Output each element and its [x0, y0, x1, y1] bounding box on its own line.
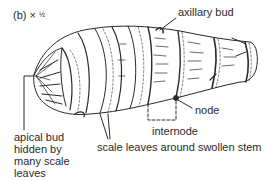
magnification-fraction: ½ — [39, 11, 45, 18]
stem-outline — [34, 26, 258, 114]
label-scale-leaves: scale leaves around swollen stem — [97, 141, 261, 153]
node-pointer — [178, 100, 192, 108]
apical-bud-pointer — [24, 76, 34, 130]
label-node: node — [195, 104, 219, 116]
figure-id: (b) × — [13, 9, 36, 21]
label-internode: internode — [152, 125, 198, 137]
internode-bracket — [148, 100, 176, 120]
scale-leaves-pointer — [100, 114, 110, 139]
swollen-stem-diagram: (b) × ½ axillary bud node internode scal… — [0, 0, 269, 181]
label-apical-bud: apical bud hidden by many scale leaves — [14, 131, 70, 179]
label-axillary-bud: axillary bud — [178, 6, 234, 18]
figure-label: (b) × ½ — [13, 9, 45, 21]
